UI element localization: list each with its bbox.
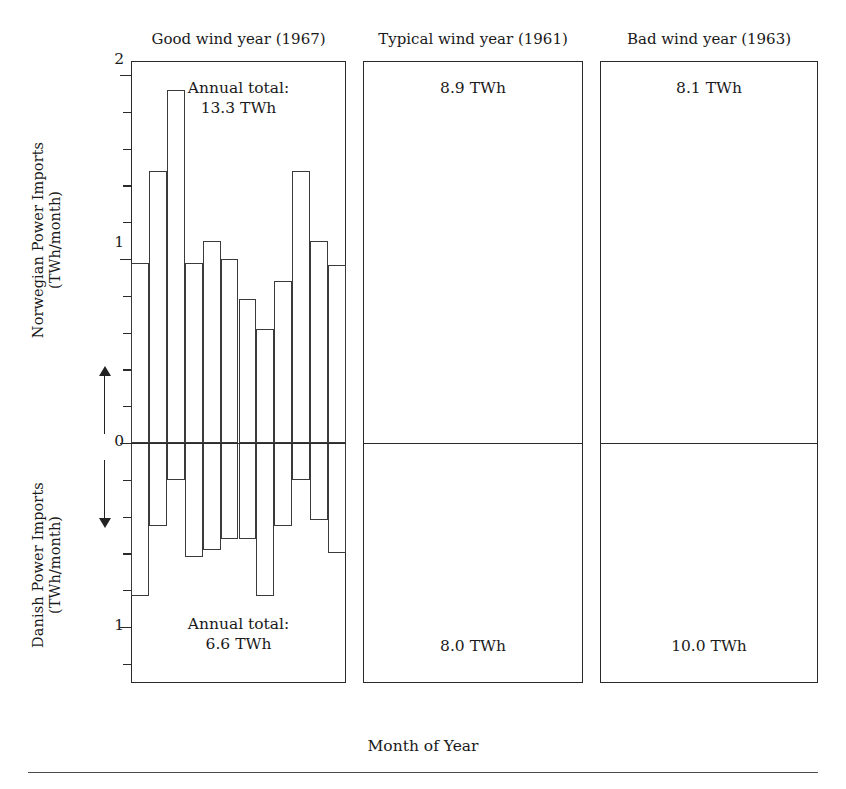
panel-typical-wind-year: Typical wind year (1961) 8.9 TWh 8.0 TWh (363, 61, 583, 683)
annotation-top-line2: 8.1 TWh (676, 79, 742, 99)
bar-danish-month-10 (292, 443, 310, 480)
bar-norwegian-month-7 (239, 299, 257, 443)
annotation-bottom-line2: 6.6 TWh (188, 635, 289, 655)
bar-norwegian-month-6 (221, 259, 239, 443)
annotation-bottom-line1: Annual total: (188, 615, 289, 635)
bar-norwegian-month-1 (131, 263, 149, 443)
bar-norwegian-month-2 (149, 171, 167, 443)
annotation-top: Annual total: 13.3 TWh (188, 79, 289, 119)
y-tick-up-1 (120, 259, 131, 260)
y-tick-down-0.8 (123, 590, 131, 591)
y-tick-up-1.2 (123, 222, 131, 223)
bar-norwegian-month-8 (256, 329, 274, 443)
panel-plot-area (600, 61, 818, 683)
figure-canvas: Norwegian Power Imports (TWh/month) Dani… (0, 0, 846, 789)
y-axis-title-danish: Danish Power Imports (TWh/month) (30, 440, 64, 690)
annotation-bottom: 8.0 TWh (440, 637, 506, 657)
y-axis-title-danish-line2: (TWh/month) (47, 440, 64, 690)
bar-danish-month-11 (310, 443, 328, 520)
y-tick-label-0: 0 (98, 434, 124, 450)
y-tick-up-1.4 (123, 185, 131, 186)
y-tick-up-1.6 (123, 149, 131, 150)
panel-good-wind-year: Good wind year (1967) Annual total: 13.3… (131, 61, 346, 683)
y-axis-title-norwegian: Norwegian Power Imports (TWh/month) (30, 50, 64, 430)
y-tick-up-0 (120, 443, 131, 444)
bar-danish-month-4 (185, 443, 203, 557)
y-axis-title-danish-line1: Danish Power Imports (30, 440, 47, 690)
bar-danish-month-2 (149, 443, 167, 526)
panel-bad-wind-year: Bad wind year (1963) 8.1 TWh 10.0 TWh (600, 61, 818, 683)
annotation-top-line2: 8.9 TWh (440, 79, 506, 99)
y-tick-up-2 (120, 75, 131, 76)
y-tick-down-0.6 (123, 553, 131, 554)
bar-norwegian-month-9 (274, 281, 292, 443)
bar-danish-month-9 (274, 443, 292, 526)
panel-title: Good wind year (1967) (151, 30, 325, 48)
y-tick-down-1 (120, 627, 131, 628)
bar-norwegian-month-3 (167, 90, 185, 443)
y-axis-title-norwegian-line2: (TWh/month) (47, 50, 64, 430)
bar-danish-month-1 (131, 443, 149, 596)
bar-norwegian-month-10 (292, 171, 310, 443)
annotation-bottom: Annual total: 6.6 TWh (188, 615, 289, 655)
annotation-top: 8.1 TWh (676, 79, 742, 99)
x-axis-title: Month of Year (0, 737, 846, 755)
down-arrow (96, 460, 114, 528)
bar-danish-month-7 (239, 443, 257, 539)
zero-baseline (131, 443, 346, 444)
bar-danish-month-3 (167, 443, 185, 480)
y-tick-label-1-top: 1 (98, 235, 124, 251)
panel-plot-area (363, 61, 583, 683)
annotation-top-line2: 13.3 TWh (188, 99, 289, 119)
bar-norwegian-month-12 (328, 265, 346, 443)
bar-danish-month-5 (203, 443, 221, 550)
annotation-bottom-line2: 8.0 TWh (440, 637, 506, 657)
panel-plot-area (131, 61, 346, 683)
y-axis-title-norwegian-line1: Norwegian Power Imports (30, 50, 47, 430)
annotation-bottom-line2: 10.0 TWh (671, 637, 747, 657)
bar-norwegian-month-5 (203, 241, 221, 443)
bar-danish-month-6 (221, 443, 239, 539)
annotation-bottom: 10.0 TWh (671, 637, 747, 657)
bar-danish-month-8 (256, 443, 274, 596)
bar-danish-month-12 (328, 443, 346, 553)
footer-rule (28, 772, 818, 773)
y-tick-up-0.2 (123, 406, 131, 407)
up-arrow (96, 366, 114, 434)
annotation-top: 8.9 TWh (440, 79, 506, 99)
panel-title: Bad wind year (1963) (627, 30, 791, 48)
y-tick-up-1.8 (123, 112, 131, 113)
zero-baseline (363, 443, 583, 444)
y-tick-label-2-top: 2 (98, 52, 124, 68)
annotation-top-line1: Annual total: (188, 79, 289, 99)
y-tick-label-1-bottom: 1 (98, 618, 124, 634)
y-tick-down-1.2 (123, 664, 131, 665)
y-tick-up-0.8 (123, 296, 131, 297)
y-tick-up-0.4 (123, 369, 131, 370)
bar-norwegian-month-11 (310, 241, 328, 443)
y-tick-down-0.4 (123, 517, 131, 518)
bar-norwegian-month-4 (185, 263, 203, 443)
y-tick-up-0.6 (123, 333, 131, 334)
zero-baseline (600, 443, 818, 444)
y-tick-down-0.2 (123, 480, 131, 481)
panel-title: Typical wind year (1961) (378, 30, 568, 48)
